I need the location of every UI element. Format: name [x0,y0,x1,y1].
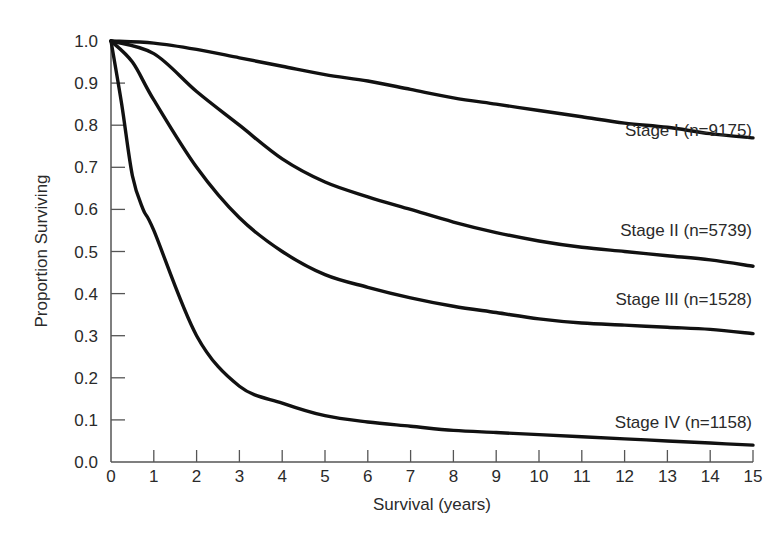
y-tick-label: 0.5 [74,243,98,262]
x-tick-label: 7 [406,467,415,486]
x-tick-label: 5 [320,467,329,486]
y-axis-title: Proportion Surviving [32,174,51,327]
x-tick-label: 13 [658,467,677,486]
x-tick-label: 8 [449,467,458,486]
x-tick-label: 11 [573,467,591,486]
x-tick-label: 14 [701,467,720,486]
x-tick-label: 4 [277,467,286,486]
y-tick-label: 0.4 [74,285,98,304]
x-tick-label: 12 [615,467,634,486]
x-axis-title: Survival (years) [373,495,491,514]
x-tick-label: 2 [192,467,201,486]
y-tick-label: 0.1 [74,411,98,430]
plot-lines [111,41,753,445]
y-tick-label: 0.2 [74,369,98,388]
y-tick-label: 0.3 [74,327,98,346]
x-tick-label: 9 [491,467,500,486]
x-axis: 0123456789101112131415 [106,450,762,486]
label-stage-i: Stage I (n=9175) [625,121,752,140]
x-tick-label: 15 [744,467,763,486]
survival-chart: 0.00.10.20.30.40.50.60.70.80.91.0 012345… [0,0,784,546]
x-tick-label: 10 [530,467,549,486]
x-tick-label: 3 [235,467,244,486]
y-tick-label: 0.8 [74,116,98,135]
label-stage-iii: Stage III (n=1528) [615,290,752,309]
y-tick-label: 1.0 [74,32,98,51]
label-stage-iv: Stage IV (n=1158) [615,413,752,432]
series-labels: Stage I (n=9175)Stage II (n=5739)Stage I… [615,121,752,432]
y-axis: 0.00.10.20.30.40.50.60.70.80.91.0 [74,32,125,472]
y-tick-label: 0.7 [74,158,98,177]
x-tick-label: 6 [363,467,372,486]
y-tick-label: 0.6 [74,200,98,219]
x-tick-label: 1 [149,467,158,486]
y-tick-label: 0.0 [74,453,98,472]
x-tick-label: 0 [106,467,115,486]
y-tick-label: 0.9 [74,74,98,93]
label-stage-ii: Stage II (n=5739) [620,221,752,240]
